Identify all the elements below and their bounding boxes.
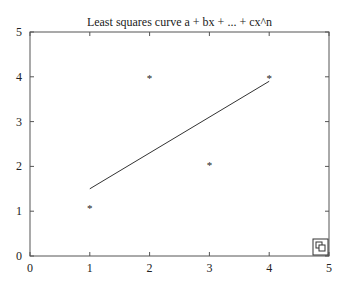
plot-frame — [30, 32, 329, 256]
x-tick-label: 5 — [326, 261, 332, 275]
data-point-marker: * — [207, 159, 213, 171]
y-tick-label: 5 — [16, 25, 22, 39]
data-point-marker: * — [147, 72, 153, 84]
x-tick-label: 3 — [206, 261, 212, 275]
x-tick-label: 2 — [147, 261, 153, 275]
y-tick-label: 4 — [16, 70, 22, 84]
y-tick-label: 0 — [16, 249, 22, 263]
data-point-marker: * — [87, 202, 93, 214]
chart: Least squares curve a + bx + ... + cx^n0… — [0, 0, 346, 286]
x-tick-label: 4 — [266, 261, 272, 275]
window-resize-icon[interactable] — [313, 239, 328, 255]
x-tick-label: 0 — [27, 261, 33, 275]
y-tick-label: 1 — [16, 204, 22, 218]
y-tick-label: 3 — [16, 115, 22, 129]
fit-line — [90, 81, 269, 189]
x-tick-label: 1 — [87, 261, 93, 275]
chart-title: Least squares curve a + bx + ... + cx^n — [87, 15, 272, 29]
y-tick-label: 2 — [16, 159, 22, 173]
